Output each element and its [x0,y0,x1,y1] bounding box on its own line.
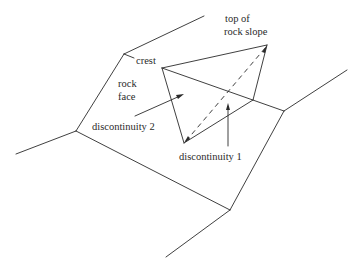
rock-slope-label: rock slope [224,26,268,37]
wedge-left-edge [162,68,184,143]
toe-line [76,131,230,210]
discontinuity-1-arrowhead [226,103,230,110]
upper-left-crest-line [124,16,204,54]
crest-label: crest [136,55,156,66]
crest-line [162,68,284,111]
discontinuity-2-arrowhead [176,94,184,99]
left-face-edge [76,54,124,131]
wedge-bottom-edge [184,100,253,143]
discontinuity-1-label: discontinuity 1 [179,151,242,162]
wedge-right-edge [253,45,267,100]
intersection-arrowhead-bottom [184,136,190,143]
face-label: face [118,91,136,102]
line-of-intersection [186,47,266,141]
rock-slope-diagram: top of rock slope crest rock face discon… [0,0,355,269]
left-toe-line [16,131,76,154]
wedge [162,45,267,143]
lower-toe-line [166,210,230,257]
slope-outline [16,16,347,257]
rock-label: rock [118,78,137,89]
discontinuity-2-label: discontinuity 2 [92,121,155,132]
crest-edge [124,54,134,58]
upper-right-line [284,70,347,111]
top-of-label: top of [225,13,250,24]
